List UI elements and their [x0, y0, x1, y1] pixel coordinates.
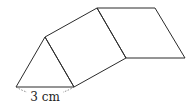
prism-net-diagram: 3 cm	[0, 0, 195, 109]
net-figure: 3 cm	[0, 0, 195, 109]
side-length-label: 3 cm	[30, 90, 60, 104]
triangle-face	[16, 37, 74, 87]
rectangle-face-1	[45, 8, 126, 87]
rectangle-face-2	[97, 8, 185, 58]
